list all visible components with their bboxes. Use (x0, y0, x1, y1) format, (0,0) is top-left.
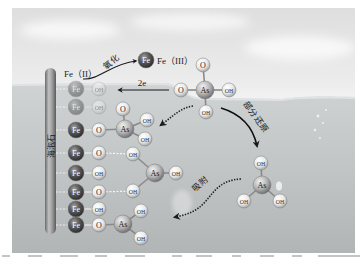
oxygen-atom: O (174, 83, 188, 97)
hydroxyl-group: OH (169, 166, 183, 180)
hydroxyl-group-label: OH (129, 189, 138, 195)
sepiolite-rod: 海泡石 (45, 68, 56, 234)
substrate-label: 海泡石 (46, 134, 56, 158)
hydroxyl-group: OH (134, 231, 148, 245)
caption-fragment (2, 255, 10, 257)
hydroxyl-group: OH (126, 184, 140, 198)
ghost-molecule (172, 190, 192, 216)
caption-fragment (28, 255, 42, 257)
hydroxyl-group: OH (273, 194, 287, 208)
arsenic-atom: As (116, 120, 134, 138)
iron-atom: Fe (68, 122, 84, 138)
hydroxyl-group-label: OH (143, 118, 152, 124)
released-iron-atom-label: Fe (142, 56, 150, 65)
oxygen-atom: O (92, 123, 106, 137)
hydroxyl-group: OH (134, 204, 148, 218)
bubble (322, 122, 324, 124)
arsenic-atom-label: As (121, 125, 130, 134)
oxygen-atom: O (92, 146, 106, 160)
hydroxyl-group-label: OH (95, 105, 104, 111)
arsenic-atom: As (114, 215, 132, 233)
hydroxyl-group-label: OH (95, 87, 104, 93)
hydroxyl-group-label: OH (137, 236, 146, 242)
oxygen-atom-label: O (96, 126, 102, 135)
iron-atom: Fe (68, 145, 84, 161)
hydroxyl-group: OH (237, 194, 251, 208)
caption-fragment (125, 255, 145, 257)
hydroxyl-group-label: OH (95, 207, 104, 213)
iron-atom-label: Fe (72, 126, 80, 135)
arsenic-atom-label: As (201, 86, 210, 95)
hydroxyl-group: OH (92, 202, 106, 216)
hydroxyl-group-label: OH (202, 110, 211, 116)
released-iron-atom: Fe (138, 52, 154, 68)
hydroxyl-group-label: OH (276, 199, 285, 205)
hydroxyl-group-label: OH (129, 152, 138, 158)
iron-atom: Fe (68, 217, 84, 233)
oxygen-atom-label: O (200, 61, 206, 70)
cloud (20, 20, 120, 40)
hydroxyl-group-label: OH (137, 209, 146, 215)
arsenic-atom-label: As (151, 169, 160, 178)
hydroxyl-group: OH (92, 82, 106, 96)
oxygen-atom: O (92, 218, 106, 232)
oxygen-atom-label: O (96, 149, 102, 158)
bubble (317, 115, 320, 118)
iron-atom-label: Fe (72, 205, 80, 214)
iron-atom: Fe (68, 165, 84, 181)
hydroxyl-group-label: OH (257, 161, 266, 167)
oxygen-atom: O (116, 102, 130, 116)
electron-label: 2e (138, 78, 147, 88)
caption-fragment (60, 255, 78, 257)
iron-atom-label: Fe (72, 169, 80, 178)
released-iron: Fe (138, 52, 154, 68)
caption-fragment (196, 255, 212, 257)
iron-atom-label: Fe (72, 149, 80, 158)
iron-atom: Fe (68, 201, 84, 217)
hydroxyl-group: OH (254, 156, 268, 170)
bubble (325, 109, 327, 111)
hydroxyl-group: OH (222, 83, 236, 97)
oxygen-atom: O (196, 58, 210, 72)
hydroxyl-group: OH (92, 166, 106, 180)
hydroxyl-group-label: OH (172, 171, 181, 177)
arsenic-atom: As (253, 176, 271, 194)
caption-fragment (232, 255, 241, 257)
iron-atom-label: Fe (72, 85, 80, 94)
figure-caption-clipped (0, 254, 364, 263)
oxygen-atom-label: O (178, 86, 184, 95)
mechanism-figure: 海泡石 FeOHFeOHFeOFeOFeOHFeOFeOHFeOAsOOOHOH… (0, 0, 364, 263)
arsenic-atom: As (196, 81, 214, 99)
oxygen-atom-label: O (96, 221, 102, 230)
caption-fragment (95, 255, 107, 257)
bubble (319, 137, 321, 139)
iron-atom-label: Fe (72, 188, 80, 197)
iron-atom: Fe (68, 184, 84, 200)
iron-atom: Fe (68, 81, 84, 97)
caption-fragment (318, 255, 360, 257)
oxygen-atom-label: O (120, 105, 126, 114)
iron-atom-label: Fe (72, 221, 80, 230)
hydroxyl-group-label: OH (225, 88, 234, 94)
hydroxyl-group: OH (92, 100, 106, 114)
arsenic-atom: As (146, 164, 164, 182)
iron-atom: Fe (68, 99, 84, 115)
oxygen-atom-label: O (96, 188, 102, 197)
hydroxyl-group-label: OH (95, 171, 104, 177)
arsenic-atom-label: As (258, 181, 267, 190)
fe-iii-label: Fe（III） (157, 56, 193, 66)
caption-fragment (260, 255, 274, 257)
hydroxyl-group-label: OH (240, 199, 249, 205)
hydroxyl-group: OH (126, 147, 140, 161)
oxygen-atom: O (92, 185, 106, 199)
hydroxyl-group: OH (199, 105, 213, 119)
mechanism-diagram: 海泡石 FeOHFeOHFeOFeOFeOHFeOFeOHFeOAsOOOHOH… (0, 0, 364, 263)
hydroxyl-group-label: OH (141, 137, 150, 143)
bubble (314, 129, 316, 131)
iron-atom-label: Fe (72, 103, 80, 112)
caption-fragment (172, 255, 182, 257)
hydroxyl-group: OH (140, 113, 154, 127)
caption-fragment (292, 255, 302, 257)
hydroxyl-group: OH (138, 132, 152, 146)
cloud (130, 13, 250, 31)
